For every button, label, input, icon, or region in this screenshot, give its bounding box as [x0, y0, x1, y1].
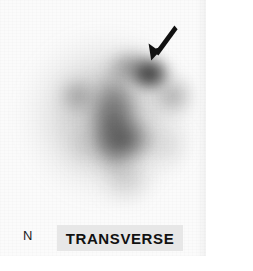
- plate-edge-shadow: [196, 0, 206, 256]
- uptake-region-central-column: [84, 62, 144, 182]
- annotation-arrow-icon: [138, 22, 184, 68]
- view-label-text: TRANSVERSE: [66, 230, 175, 247]
- uptake-region-lower-central-band: [94, 116, 158, 164]
- uptake-region-inferior-tail: [98, 150, 154, 206]
- uptake-region-left-lateral: [56, 76, 100, 116]
- view-label-band: TRANSVERSE: [57, 225, 183, 251]
- scan-plate: [0, 0, 206, 256]
- uptake-region-right-inferior-shoulder: [142, 120, 192, 172]
- scan-figure: N TRANSVERSE: [0, 0, 253, 271]
- uptake-region-right-lateral: [150, 74, 196, 118]
- uptake-region-left-inferior-shoulder: [62, 120, 110, 170]
- orientation-marker-n: N: [23, 229, 32, 242]
